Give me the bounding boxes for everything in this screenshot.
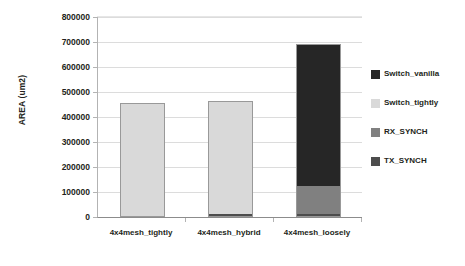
- legend-swatch-icon: [371, 70, 380, 79]
- bar-stack[interactable]: [120, 17, 165, 217]
- y-axis-tick-mark: [93, 142, 97, 143]
- legend-swatch-icon: [371, 99, 380, 108]
- y-axis-tick-label: 800000: [28, 12, 90, 22]
- bar-stack[interactable]: [208, 17, 253, 217]
- bar-segment[interactable]: [120, 103, 165, 216]
- y-axis-tick-label: 700000: [28, 37, 90, 47]
- bar-stack[interactable]: [296, 17, 341, 217]
- bar-segment[interactable]: [296, 214, 341, 217]
- y-axis-tick-mark: [93, 17, 97, 18]
- x-axis-tick-label: 4x4mesh_loosely: [273, 228, 361, 237]
- y-axis-tick-mark: [93, 42, 97, 43]
- y-axis-tick-mark: [93, 167, 97, 168]
- bar-segment[interactable]: [296, 186, 341, 215]
- y-axis-tick-mark: [93, 67, 97, 68]
- y-axis-tick-mark: [93, 117, 97, 118]
- legend-swatch-icon: [371, 128, 380, 137]
- x-axis-tick-mark: [361, 218, 362, 222]
- plot-area: [97, 17, 362, 218]
- y-axis-tick-mark: [93, 92, 97, 93]
- legend-swatch-icon: [371, 157, 380, 166]
- bar-segment[interactable]: [296, 44, 341, 186]
- y-axis-tick-label: 300000: [28, 137, 90, 147]
- x-axis-tick-mark: [185, 218, 186, 222]
- y-axis-tick-label: 500000: [28, 87, 90, 97]
- legend-label: RX_SYNCH: [384, 127, 428, 136]
- y-axis-tick-label: 100000: [28, 187, 90, 197]
- y-axis-tick-label: 400000: [28, 112, 90, 122]
- legend-item[interactable]: RX_SYNCH: [371, 124, 463, 153]
- x-axis-tick-label: 4x4mesh_hybrid: [185, 228, 273, 237]
- y-axis-tick-label: 200000: [28, 162, 90, 172]
- legend-label: Switch_tightly: [384, 98, 438, 107]
- y-axis-tick-mark: [93, 192, 97, 193]
- bar-segment[interactable]: [208, 214, 253, 218]
- bar-segment[interactable]: [208, 101, 253, 214]
- x-axis-tick-labels: 4x4mesh_tightly4x4mesh_hybrid4x4mesh_loo…: [97, 228, 361, 242]
- y-axis-tick-labels: 0100000200000300000400000500000600000700…: [28, 10, 90, 224]
- chart-container: AREA (um2) 01000002000003000004000005000…: [0, 0, 465, 266]
- chart-legend: Switch_vanillaSwitch_tightlyRX_SYNCHTX_S…: [371, 66, 463, 182]
- x-axis-tick-mark: [273, 218, 274, 222]
- y-axis-tick-label: 0: [28, 212, 90, 222]
- legend-label: TX_SYNCH: [384, 156, 427, 165]
- y-axis-title: AREA (um2): [17, 45, 27, 155]
- legend-item[interactable]: Switch_tightly: [371, 95, 463, 124]
- x-axis-tick-label: 4x4mesh_tightly: [97, 228, 185, 237]
- legend-label: Switch_vanilla: [384, 69, 439, 78]
- y-axis-tick-mark: [93, 217, 97, 218]
- legend-item[interactable]: TX_SYNCH: [371, 153, 463, 182]
- y-axis-tick-label: 600000: [28, 62, 90, 72]
- legend-item[interactable]: Switch_vanilla: [371, 66, 463, 95]
